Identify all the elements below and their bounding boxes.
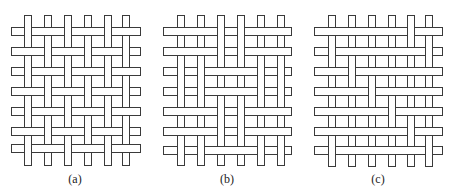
warp-overlap xyxy=(329,146,335,156)
weft-thread xyxy=(315,108,443,116)
warp-overlap xyxy=(349,67,355,77)
warp-overlap xyxy=(369,87,375,97)
weft-thread xyxy=(315,128,443,136)
caption-c: (c) xyxy=(371,172,384,187)
weft-thread xyxy=(315,68,443,76)
warp-overlap xyxy=(329,47,335,57)
satin-weave-illustration xyxy=(0,0,449,194)
weft-thread xyxy=(315,88,443,96)
warp-overlap xyxy=(426,47,432,57)
warp-overlap xyxy=(389,107,395,117)
weft-thread xyxy=(315,28,443,36)
warp-overlap xyxy=(408,27,414,37)
warp-overlap xyxy=(408,127,414,137)
warp-overlap xyxy=(426,146,432,156)
weave-diagram-c: (c) xyxy=(0,0,449,194)
